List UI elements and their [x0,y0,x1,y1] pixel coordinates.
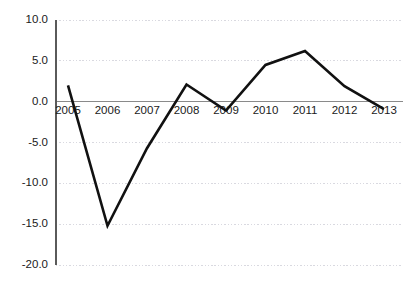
y-tick-label: -20.0 [22,258,48,270]
x-tick-label: 2010 [253,104,279,116]
chart-canvas: 10.05.00.0-5.0-10.0-15.0-20.0 2005200620… [0,0,415,289]
x-tick-label: 2006 [95,104,121,116]
y-axis-tick-labels: 10.05.00.0-5.0-10.0-15.0-20.0 [22,13,48,270]
series-polyline [68,51,384,226]
x-tick-label: 2007 [134,104,160,116]
x-tick-label: 2013 [371,104,397,116]
data-series-line [68,51,384,226]
x-tick-label: 2011 [293,104,318,116]
line-chart: 10.05.00.0-5.0-10.0-15.0-20.0 2005200620… [0,0,415,289]
x-tick-label: 2008 [174,104,200,116]
y-tick-label: 5.0 [32,54,48,66]
y-tick-label: 10.0 [26,13,48,25]
y-tick-label: -15.0 [22,217,48,229]
y-tick-label: 0.0 [32,95,48,107]
x-tick-label: 2012 [332,104,358,116]
y-tick-label: -10.0 [22,176,48,188]
gridlines-group [56,20,403,265]
y-tick-label: -5.0 [28,136,48,148]
